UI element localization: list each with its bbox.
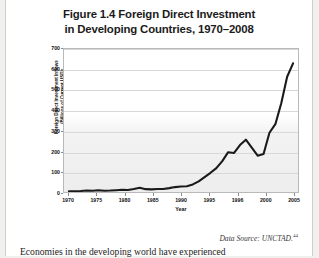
x-tick-label: 2005 bbox=[288, 197, 300, 203]
chart-container: Foreign Direct Investment Inflows (Billi… bbox=[22, 44, 306, 216]
y-tick-mark bbox=[61, 193, 63, 194]
body-paragraph: Economies in the developing world have e… bbox=[20, 246, 302, 258]
x-tick-label: 1985 bbox=[147, 197, 159, 203]
footnote-marker: 44 bbox=[293, 233, 298, 238]
x-tick-label: 1995 bbox=[203, 197, 215, 203]
x-tick-label: 2000 bbox=[260, 197, 272, 203]
y-tick-label: 100 bbox=[51, 169, 60, 175]
data-source-caption: Data Source: UNCTAD.44 bbox=[219, 233, 298, 243]
y-tick-label: 0 bbox=[57, 190, 60, 196]
data-source-text: Data Source: UNCTAD. bbox=[219, 234, 293, 243]
x-tick-mark bbox=[68, 193, 69, 196]
x-tick-label: 1980 bbox=[119, 197, 131, 203]
y-tick-label: 300 bbox=[51, 128, 60, 134]
y-tick-label: 700 bbox=[51, 45, 60, 51]
x-tick-label: 1970 bbox=[62, 197, 74, 203]
x-tick-mark bbox=[181, 193, 182, 196]
x-tick-mark bbox=[209, 193, 210, 196]
x-tick-mark bbox=[153, 193, 154, 196]
y-tick-label: 500 bbox=[51, 86, 60, 92]
x-axis-ticks: 197019751980198519901995199620002005 bbox=[63, 48, 299, 193]
x-axis-title: Year bbox=[63, 206, 299, 212]
x-tick-mark bbox=[294, 193, 295, 196]
x-tick-label: 1975 bbox=[90, 197, 102, 203]
x-tick-mark bbox=[266, 193, 267, 196]
x-tick-label: 1990 bbox=[175, 197, 187, 203]
figure-title-line-1: Figure 1.4 Foreign Direct Investment bbox=[6, 7, 312, 22]
x-tick-mark bbox=[238, 193, 239, 196]
x-tick-label: 1996 bbox=[232, 197, 244, 203]
figure-title-line-2: in Developing Countries, 1970–2008 bbox=[6, 22, 312, 37]
figure-title: Figure 1.4 Foreign Direct Investment in … bbox=[6, 7, 312, 37]
y-tick-label: 400 bbox=[51, 107, 60, 113]
x-tick-mark bbox=[125, 193, 126, 196]
figure-page: Figure 1.4 Foreign Direct Investment in … bbox=[5, 0, 313, 256]
x-tick-mark bbox=[96, 193, 97, 196]
y-tick-label: 600 bbox=[51, 66, 60, 72]
y-tick-label: 200 bbox=[51, 149, 60, 155]
